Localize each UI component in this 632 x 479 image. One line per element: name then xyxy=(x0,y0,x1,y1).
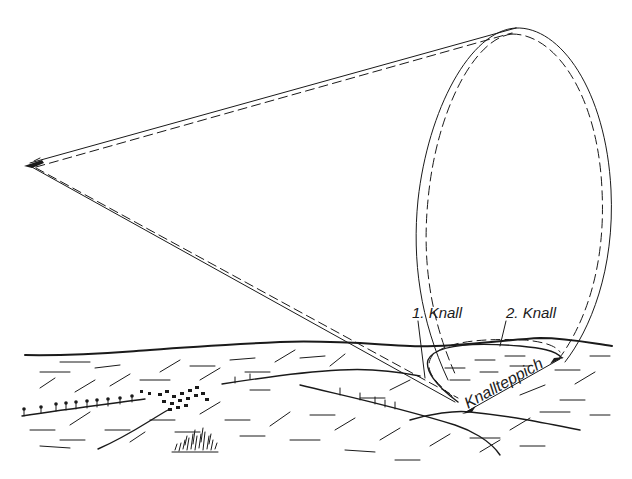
first-boom-leader xyxy=(418,321,425,378)
label-first-boom: 1. Knall xyxy=(412,304,463,321)
cone-upper-edge xyxy=(30,28,516,163)
sonic-boom-diagram: .ink { stroke:#1a1a1a; fill:none; stroke… xyxy=(0,0,632,479)
ridge-ticks xyxy=(235,374,395,409)
diagram-canvas: .ink { stroke:#1a1a1a; fill:none; stroke… xyxy=(0,0,632,479)
village xyxy=(140,386,209,411)
label-second-boom: 2. Knall xyxy=(505,304,557,321)
cone-lower-edge-dashed xyxy=(36,168,458,398)
cone-base-ellipse-dashed xyxy=(426,34,602,376)
cone-lower-edge xyxy=(30,166,455,402)
second-boom-leader xyxy=(500,321,506,346)
cone-upper-edge-dashed xyxy=(36,33,512,167)
cone-base-ellipse xyxy=(416,28,611,380)
label-boom-carpet: Knallteppich xyxy=(461,354,546,411)
right-ridge xyxy=(410,411,580,430)
carpet-arrow-end-icon xyxy=(550,357,564,364)
